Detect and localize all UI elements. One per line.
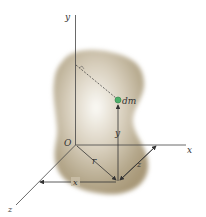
r-label: r xyxy=(92,156,97,166)
y-dimension-label: y xyxy=(114,128,121,138)
x-dimension-label: x xyxy=(73,178,78,187)
z-axis-label: z xyxy=(7,205,13,214)
mass-element-label: dm xyxy=(122,96,136,106)
rigid-body xyxy=(53,50,148,195)
moment-of-inertia-diagram: y x z O dm y r z x xyxy=(0,0,206,217)
diagram-canvas: y x z O dm y r z x xyxy=(0,0,206,217)
y-axis-label: y xyxy=(64,12,71,22)
x-axis-label: x xyxy=(187,145,192,155)
mass-element-dm xyxy=(115,97,121,103)
z-dimension-label: z xyxy=(136,160,142,169)
origin-label: O xyxy=(64,138,72,148)
